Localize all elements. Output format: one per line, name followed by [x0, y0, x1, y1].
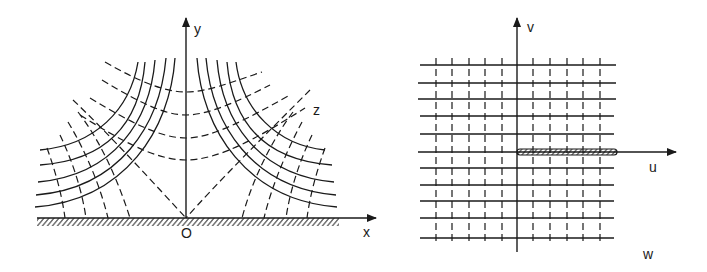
dashed-hyperbolas-left	[47, 100, 186, 218]
u-axis-label: u	[649, 159, 657, 175]
w-plane-label: w	[642, 246, 654, 262]
v-axis-label: v	[527, 19, 534, 35]
z-plane-diagram: y z x O	[35, 18, 376, 241]
z-plane-label: z	[313, 102, 320, 118]
y-axis-label: y	[194, 21, 201, 37]
conformal-map-figure: y z x O	[0, 0, 707, 272]
w-plane-diagram: v u w	[418, 18, 676, 262]
origin-label: O	[181, 225, 192, 241]
x-axis-label: x	[363, 224, 370, 240]
slit-hatch	[517, 149, 617, 155]
